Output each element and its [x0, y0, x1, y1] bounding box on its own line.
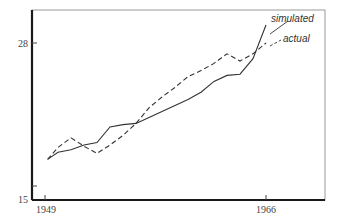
line-chart: 28 15 1949 1966 simulated actual — [0, 0, 341, 221]
simulated-line — [48, 25, 266, 159]
x-tick-label-1949: 1949 — [36, 204, 56, 215]
plot-frame — [32, 10, 325, 200]
y-tick-label-15: 15 — [18, 194, 28, 205]
actual-line — [48, 43, 266, 159]
actual-leader-line — [270, 40, 281, 46]
simulated-label: simulated — [271, 13, 314, 24]
actual-label: actual — [283, 33, 310, 44]
y-tick-label-28: 28 — [18, 38, 28, 49]
x-tick-label-1966: 1966 — [256, 204, 276, 215]
